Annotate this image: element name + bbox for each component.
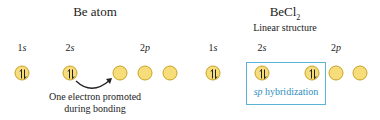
orbital-sp2-paired-icon (305, 66, 320, 81)
orbital-1s-paired-icon (206, 66, 221, 81)
orbital-sp1-paired-icon (255, 66, 270, 81)
caption-line-1: One electron promoted (49, 91, 141, 103)
label-2p-right: 2p (331, 42, 341, 53)
orbital-2py-empty-icon (329, 66, 344, 81)
becl2-title: BeCl2 (270, 4, 301, 22)
orbital-2pz-empty-icon (353, 66, 368, 81)
linear-structure-subtitle: Linear structure (253, 22, 317, 33)
caption-line-2: during bonding (49, 103, 141, 115)
label-2s-right: 2s (258, 42, 267, 53)
label-1s-right: 1s (209, 42, 218, 53)
promotion-caption: One electron promoted during bonding (49, 91, 141, 115)
sp-hybridization-label: sp hybridization (254, 86, 319, 97)
